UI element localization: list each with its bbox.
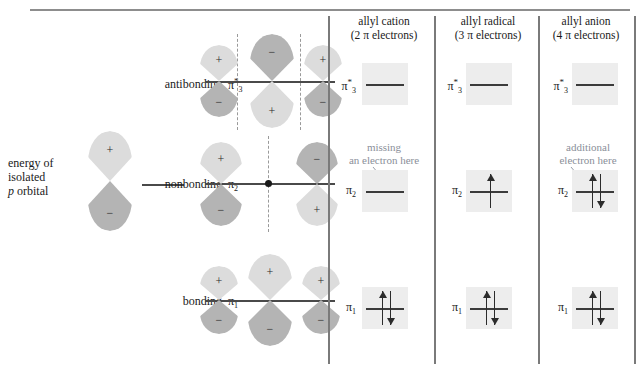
lobe-sign-bottom-2: + xyxy=(250,105,294,117)
p-orbital-1-pi1: + − xyxy=(200,266,238,334)
pi-sub: 1 xyxy=(458,307,462,316)
isolated-lobe-plus: + xyxy=(88,131,132,181)
top-divider-rule xyxy=(30,9,630,11)
occupancy-cell-radical-pi3star xyxy=(466,63,512,105)
lobe-bottom-1: − xyxy=(200,81,238,117)
electron-arrow-down-anion-pi2 xyxy=(596,174,605,208)
orbital-set-pi1: + − + − + − xyxy=(200,262,340,346)
cell-label-anion-pi2: π2 xyxy=(546,183,568,199)
lobe-top-2: + xyxy=(248,254,292,300)
electron-arrow-down-cation-pi1 xyxy=(386,291,395,325)
column-header-anion: allyl anion (4 π electrons) xyxy=(536,14,636,42)
cell-label-radical-pi3star: π*3 xyxy=(440,77,462,95)
iso-label-line2: isolated xyxy=(8,170,92,184)
panel-divider-left xyxy=(328,16,330,364)
column-title-anion: allyl anion xyxy=(536,14,636,28)
column-subtitle-cation: (2 π electrons) xyxy=(334,28,434,42)
occupancy-cell-cation-pi3star xyxy=(362,63,408,105)
iso-label-orbital-word: orbital xyxy=(14,184,48,198)
column-header-radical: allyl radical (3 π electrons) xyxy=(438,14,538,42)
lobe-sign-top-1: + xyxy=(200,275,238,287)
cell-label-cation-pi1: π1 xyxy=(334,300,356,316)
isolated-p-orbital-label: energy of isolated p orbital xyxy=(8,156,92,198)
lobe-top-1: + xyxy=(200,266,238,300)
lobe-sign-bottom-2: − xyxy=(248,323,292,335)
lobe-sign-bottom-1: − xyxy=(200,314,238,326)
node-center-dot-pi2 xyxy=(265,180,272,187)
column-subtitle-anion: (4 π electrons) xyxy=(536,28,636,42)
cell-label-radical-pi1: π1 xyxy=(440,300,462,316)
lobe-sign-top-2: − xyxy=(250,46,294,58)
occupancy-cell-radical-pi2 xyxy=(466,170,512,212)
mo-energy-diagram: energy of isolated p orbital + − antibon… xyxy=(0,0,638,368)
level-line-anion-pi3star xyxy=(576,84,614,86)
occupancy-cell-anion-pi3star xyxy=(572,63,618,105)
pi-sub: 2 xyxy=(458,190,462,199)
electron-arrow-down-radical-pi1 xyxy=(490,291,499,325)
cell-label-anion-pi1: π1 xyxy=(546,300,568,316)
occupancy-cell-radical-pi1 xyxy=(466,287,512,329)
orbital-set-pi3star: + − − + + − xyxy=(200,40,340,124)
annotation-anion-line1: additional xyxy=(540,141,636,154)
lobe-top-1: + xyxy=(200,45,238,81)
level-line-radical-pi3star xyxy=(470,84,508,86)
pi-sub: 2 xyxy=(352,190,356,199)
iso-label-line3: p orbital xyxy=(8,184,92,198)
panel-divider-1 xyxy=(434,16,436,364)
orbital-set-pi2: + − − + xyxy=(200,142,340,226)
level-line-cation-pi2 xyxy=(366,191,404,193)
pi-sub: 1 xyxy=(352,307,356,316)
occupancy-cell-cation-pi1 xyxy=(362,287,408,329)
cell-label-radical-pi2: π2 xyxy=(440,183,462,199)
lobe-sign-top-3: − xyxy=(296,153,338,165)
annotation-anion: additional electron here xyxy=(540,141,636,167)
lobe-bottom-2: − xyxy=(248,300,292,346)
annotation-cation: missing an electron here xyxy=(336,141,432,167)
column-header-cation: allyl cation (2 π electrons) xyxy=(334,14,434,42)
column-subtitle-radical: (3 π electrons) xyxy=(438,28,538,42)
panel-divider-right xyxy=(634,16,636,364)
lobe-sign-bottom-3: − xyxy=(304,96,342,108)
electron-arrow-up-radical-pi2 xyxy=(486,174,495,208)
cell-label-anion-pi3star: π*3 xyxy=(546,77,568,95)
pi-sub: 1 xyxy=(564,307,568,316)
lobe-sign-bottom-1: − xyxy=(200,96,238,108)
pi-sub: 3 xyxy=(352,86,356,95)
level-line-cation-pi3star xyxy=(366,84,404,86)
p-orbital-2-pi3star: − + xyxy=(250,34,294,128)
phase-sign-minus: − xyxy=(88,207,132,219)
lobe-sign-top-3: + xyxy=(304,54,342,66)
lobe-sign-top-1: + xyxy=(200,54,238,66)
lobe-top-3: − xyxy=(296,142,338,184)
lobe-bottom-3: + xyxy=(296,184,338,226)
cell-label-cation-pi2: π2 xyxy=(334,183,356,199)
p-orbital-1-pi3star: + − xyxy=(200,45,238,117)
occupancy-cell-anion-pi2 xyxy=(572,170,618,212)
lobe-top-3: + xyxy=(304,45,342,81)
lobe-sign-bottom-1: − xyxy=(200,204,242,216)
annotation-cation-line1: missing xyxy=(336,141,432,154)
lobe-sign-bottom-3: + xyxy=(296,204,338,216)
cell-label-cation-pi3star: π*3 xyxy=(334,77,356,95)
pi-sub: 3 xyxy=(458,86,462,95)
p-orbital-3-pi2: − + xyxy=(296,142,338,226)
column-title-radical: allyl radical xyxy=(438,14,538,28)
panel-divider-2 xyxy=(538,16,540,364)
lobe-sign-top-3: + xyxy=(302,275,340,287)
p-orbital-2-pi1: + − xyxy=(248,254,292,346)
lobe-top-3: + xyxy=(302,266,340,300)
lobe-bottom-2: + xyxy=(250,81,294,128)
pi-sub: 2 xyxy=(564,190,568,199)
iso-label-line1: energy of xyxy=(8,156,92,170)
lobe-bottom-1: − xyxy=(200,184,242,226)
pi-sub: 3 xyxy=(564,86,568,95)
lobe-sign-top-1: + xyxy=(200,153,242,165)
lobe-sign-top-2: + xyxy=(248,266,292,278)
occupancy-cell-cation-pi2 xyxy=(362,170,408,212)
lobe-top-2: − xyxy=(250,34,294,81)
lobe-top-1: + xyxy=(200,142,242,184)
phase-sign-plus: + xyxy=(88,144,132,156)
p-orbital-1-pi2: + − xyxy=(200,142,242,226)
column-title-cation: allyl cation xyxy=(334,14,434,28)
lobe-bottom-1: − xyxy=(200,300,238,334)
